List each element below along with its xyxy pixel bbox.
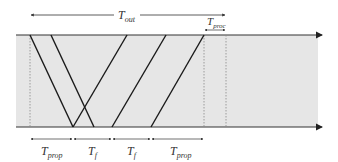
t-f-label-2: Tf: [127, 144, 138, 160]
shaded-region: [16, 35, 318, 127]
t-out-label: Tout: [118, 8, 136, 24]
t-f-label-1: Tf: [88, 144, 99, 160]
t-prop-label-1: Tprop: [41, 144, 63, 160]
t-proc-label: Tproc: [207, 15, 227, 30]
timing-diagram: Tout Tproc Tprop Tf Tf Tprop: [0, 0, 338, 162]
t-prop-label-2: Tprop: [170, 144, 192, 160]
